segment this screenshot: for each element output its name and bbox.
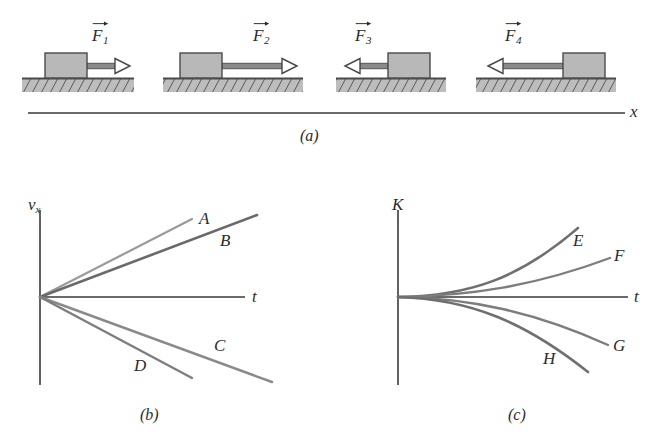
panel-b-x-axis-label: t	[252, 288, 257, 305]
block-4	[476, 53, 616, 92]
panel-caption-b: (b)	[140, 407, 159, 423]
panel-b-y-axis-label: vx	[28, 196, 40, 215]
block-1	[22, 53, 134, 92]
block-3-box	[388, 53, 430, 78]
panel-a-graphics	[22, 53, 625, 113]
block-1-arrow-shaft	[87, 63, 115, 69]
block-4-arrow-head	[488, 59, 503, 74]
panel-c-series-label-F: F	[614, 247, 624, 264]
block-2	[163, 53, 303, 92]
block-4-force-label: F4	[505, 27, 521, 46]
block-4-ground-hatch	[476, 78, 616, 92]
panel-b-series-label-A: A	[199, 210, 209, 227]
block-3-force-label: F3	[355, 27, 371, 46]
panel-c-series-label-E: E	[573, 232, 583, 249]
block-2-force-label: F2	[253, 27, 269, 46]
panel-b-line-B	[40, 215, 257, 297]
panel-b-line-C	[40, 297, 272, 382]
block-4-box	[563, 53, 605, 78]
panel-c-curve-H	[398, 297, 588, 372]
panel-a-x-axis-label: x	[630, 103, 638, 120]
panel-c-series-label-H: H	[543, 350, 555, 367]
panel-c-curve-E	[398, 228, 578, 297]
panel-b-line-D	[40, 297, 192, 378]
block-3	[336, 53, 446, 92]
panel-c-y-axis-label: K	[392, 196, 403, 213]
block-2-ground-hatch	[163, 78, 303, 92]
block-3-arrow-head	[345, 59, 360, 74]
panel-c-x-axis-label: t	[634, 288, 639, 305]
panel-b-series-label-D: D	[134, 357, 146, 374]
block-2-arrow-shaft	[222, 63, 282, 69]
panel-caption-a: (a)	[300, 128, 319, 144]
block-1-arrow-head	[115, 59, 130, 74]
block-2-box	[180, 53, 222, 78]
block-4-arrow-shaft	[503, 63, 563, 69]
panel-b-line-A	[40, 219, 192, 297]
block-1-ground-hatch	[22, 78, 134, 92]
panel-c-curve-G	[398, 297, 608, 345]
figure-canvas	[0, 0, 669, 444]
panel-caption-c: (c)	[508, 407, 526, 423]
panel-b-series-label-C: C	[214, 337, 225, 354]
panel-c-series-label-G: G	[613, 337, 625, 354]
block-3-arrow-shaft	[360, 63, 388, 69]
panel-c-graphics	[398, 210, 628, 385]
block-1-force-label: F1	[92, 27, 108, 46]
panel-b-series-label-B: B	[220, 232, 230, 249]
block-2-arrow-head	[282, 59, 297, 74]
block-1-box	[45, 53, 87, 78]
physics-figure: F1F2F3F4xABCDvxtEFGHKt(a)(b)(c)	[0, 0, 669, 444]
panel-b-graphics	[40, 210, 272, 385]
block-3-ground-hatch	[336, 78, 446, 92]
